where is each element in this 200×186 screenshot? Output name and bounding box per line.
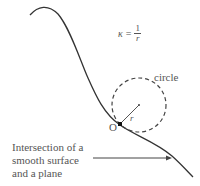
point-o-marker [118, 122, 122, 126]
fraction-denominator: r [136, 34, 140, 43]
center-point [138, 104, 140, 106]
radius-label: r [130, 112, 134, 125]
caption-line-3: and a plane [12, 167, 62, 180]
curvature-formula: κ = 1 r [118, 24, 141, 43]
caption-line-2: smooth surface [12, 154, 79, 167]
caption-line-1: Intersection of a [12, 141, 83, 154]
circle-label: circle [154, 71, 178, 84]
kappa-symbol: κ [118, 28, 123, 39]
point-o-label: O [109, 121, 117, 134]
equals-sign: = [126, 28, 132, 39]
fraction: 1 r [134, 24, 141, 43]
arrowhead-icon [166, 156, 172, 161]
